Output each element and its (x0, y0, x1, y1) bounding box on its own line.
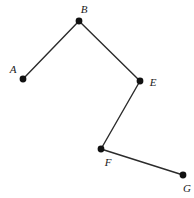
vertex-point-b (76, 18, 83, 25)
vertex-label-g: G (183, 183, 191, 194)
vertex-point-a (20, 76, 27, 83)
figure-canvas (0, 0, 194, 198)
vertex-label-b: B (81, 4, 88, 15)
vertex-label-e: E (150, 77, 157, 88)
geometry-figure: ABEFG (0, 0, 194, 198)
vertex-label-f: F (105, 157, 112, 168)
vertex-point-f (98, 146, 105, 153)
vertex-point-g (180, 172, 187, 179)
vertex-label-a: A (10, 64, 17, 75)
vertex-point-e (137, 78, 144, 85)
figure-background (0, 0, 194, 198)
